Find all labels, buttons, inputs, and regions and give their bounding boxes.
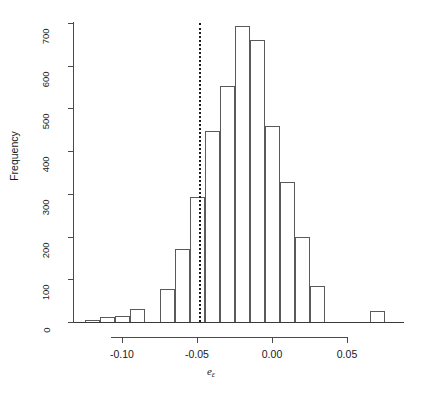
histogram-bar bbox=[310, 286, 325, 322]
y-tick bbox=[68, 23, 73, 24]
x-tick-label: -0.05 bbox=[167, 348, 227, 360]
x-axis-title: eε bbox=[0, 365, 422, 379]
y-tick-label: 700 bbox=[0, 18, 46, 28]
y-tick bbox=[68, 108, 73, 109]
reference-line-vertical bbox=[199, 23, 201, 322]
x-tick bbox=[347, 337, 348, 343]
y-tick bbox=[68, 66, 73, 67]
y-tick bbox=[68, 322, 73, 323]
histogram-bar bbox=[160, 289, 175, 322]
x-axis-title-subscript: ε bbox=[212, 370, 215, 379]
y-tick-label-text: 400 bbox=[41, 157, 52, 173]
y-tick-label-text: 700 bbox=[41, 29, 52, 45]
x-tick bbox=[122, 337, 123, 343]
histogram-bar bbox=[190, 197, 205, 322]
y-tick-label: 100 bbox=[0, 274, 46, 284]
y-tick-label-text: 500 bbox=[41, 114, 52, 130]
histogram-bar bbox=[130, 309, 145, 322]
x-tick bbox=[272, 337, 273, 343]
y-tick-label: 200 bbox=[0, 232, 46, 242]
y-tick-label-text: 200 bbox=[41, 242, 52, 258]
y-tick-label-text: 100 bbox=[41, 285, 52, 301]
x-tick-label: -0.10 bbox=[92, 348, 152, 360]
y-tick-label: 400 bbox=[0, 146, 46, 156]
x-tick bbox=[197, 337, 198, 343]
y-tick-label: 0 bbox=[0, 317, 46, 327]
histogram-bar bbox=[220, 86, 235, 322]
y-tick bbox=[68, 279, 73, 280]
y-tick bbox=[68, 237, 73, 238]
histogram-bar bbox=[280, 182, 295, 322]
y-tick-label: 600 bbox=[0, 61, 46, 71]
histogram-bar bbox=[370, 311, 385, 322]
histogram-bar bbox=[175, 249, 190, 322]
histogram-bar bbox=[295, 237, 310, 322]
histogram-bar bbox=[205, 131, 220, 322]
x-tick-label: 0.00 bbox=[242, 348, 302, 360]
y-tick-label-text: 300 bbox=[41, 199, 52, 215]
y-tick-label-text: 0 bbox=[41, 328, 52, 333]
x-axis-line bbox=[111, 337, 347, 338]
y-tick-label: 300 bbox=[0, 189, 46, 199]
histogram-figure: Frequency 0100200300400500600700 -0.10-0… bbox=[0, 0, 422, 393]
histogram-bar bbox=[235, 26, 250, 322]
y-tick-label: 500 bbox=[0, 103, 46, 113]
x-tick-label: 0.05 bbox=[317, 348, 377, 360]
histogram-bar bbox=[265, 126, 280, 322]
y-tick bbox=[68, 151, 73, 152]
y-tick bbox=[68, 194, 73, 195]
histogram-baseline bbox=[74, 322, 404, 323]
histogram-bar bbox=[250, 40, 265, 322]
plot-area bbox=[74, 23, 404, 322]
y-tick-label-text: 600 bbox=[41, 71, 52, 87]
